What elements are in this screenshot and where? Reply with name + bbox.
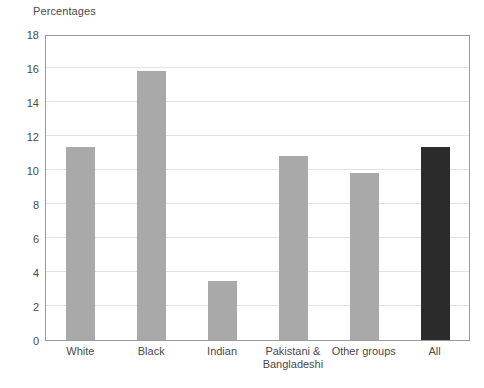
plot-area — [45, 35, 470, 341]
y-axis-tick-label: 4 — [3, 267, 39, 279]
y-axis-tick-label: 2 — [3, 301, 39, 313]
chart-title: Percentages — [33, 5, 96, 17]
bar — [421, 147, 450, 340]
y-axis-tick-labels: 181614121086420 — [0, 35, 39, 341]
x-axis-tick-label: White — [45, 345, 116, 358]
y-axis-tick-label: 18 — [3, 29, 39, 41]
x-axis-tick-label-line: White — [45, 345, 116, 358]
y-axis-tick-label: 0 — [3, 335, 39, 347]
x-axis-tick-label-line: All — [399, 345, 470, 358]
x-axis-tick-label-line: Pakistani & — [258, 345, 329, 358]
bar — [208, 281, 237, 341]
bar — [350, 173, 379, 340]
y-axis-tick-label: 8 — [3, 199, 39, 211]
x-axis-tick-labels: WhiteBlackIndianPakistani &BangladeshiOt… — [45, 345, 470, 385]
y-axis-tick-label: 10 — [3, 165, 39, 177]
x-axis-tick-label-line: Indian — [187, 345, 258, 358]
y-axis-tick-label: 16 — [3, 63, 39, 75]
x-axis-tick-label-line: Bangladeshi — [258, 358, 329, 371]
y-axis-tick-label: 6 — [3, 233, 39, 245]
bar — [66, 147, 95, 340]
y-axis-tick-label: 14 — [3, 97, 39, 109]
bar — [279, 156, 308, 340]
x-axis-tick-label: Pakistani &Bangladeshi — [258, 345, 329, 371]
y-axis-tick-label: 12 — [3, 131, 39, 143]
x-axis-tick-label: Other groups — [328, 345, 399, 358]
bars-group — [46, 36, 469, 340]
x-axis-tick-label: Indian — [187, 345, 258, 358]
x-axis-tick-label-line: Black — [116, 345, 187, 358]
x-axis-tick-label-line: Other groups — [328, 345, 399, 358]
bar-chart: Percentages 181614121086420 WhiteBlackIn… — [0, 0, 484, 388]
x-axis-tick-label: All — [399, 345, 470, 358]
x-axis-tick-label: Black — [116, 345, 187, 358]
bar — [137, 71, 166, 340]
